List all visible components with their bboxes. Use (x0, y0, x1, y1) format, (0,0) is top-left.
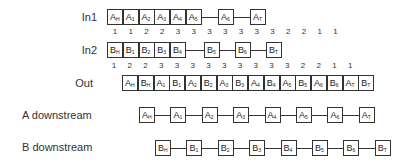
connector-line (186, 115, 201, 116)
count-value: 3 (205, 27, 215, 37)
count-value: 2 (141, 61, 151, 71)
count-value: 3 (172, 61, 182, 71)
packet-box: BT (375, 140, 391, 156)
row-label-b-downstream: B downstream (22, 141, 92, 153)
connector-line (297, 148, 312, 149)
packet-box: B5 (204, 42, 220, 58)
packet-box: A6 (218, 9, 234, 25)
packet-box: BT (266, 42, 282, 58)
row-label-in2: In2 (37, 44, 97, 56)
packet-box: A4 (170, 9, 186, 25)
packet-box: A6 (327, 107, 343, 123)
connector-line (218, 115, 233, 116)
count-value: 1 (345, 61, 355, 71)
count-value: 2 (142, 27, 152, 37)
packet-box: A2 (202, 107, 218, 123)
connector-line (328, 148, 343, 149)
packet-box: B4 (281, 140, 297, 156)
count-value: 2 (299, 27, 309, 37)
packet-box: B2 (139, 42, 155, 58)
count-value: 3 (219, 61, 229, 71)
packet-box: BH (138, 75, 154, 91)
packet-box: A2 (139, 9, 155, 25)
count-value: 3 (189, 27, 199, 37)
connector-line (281, 115, 296, 116)
packet-box: B3 (154, 42, 170, 58)
packet-box: B4 (170, 42, 186, 58)
packet-box: B6 (343, 140, 359, 156)
connector-line (234, 17, 250, 18)
packet-box: B6 (235, 42, 251, 58)
packet-box: BH (107, 42, 123, 58)
count-value: 3 (268, 27, 278, 37)
connector-line (220, 50, 235, 51)
count-value: 3 (282, 61, 292, 71)
packet-box: A1 (154, 75, 170, 91)
packet-box: A3 (233, 107, 249, 123)
connector-line (359, 148, 374, 149)
row-label-a-downstream: A downstream (22, 109, 92, 121)
count-value: 1 (126, 27, 136, 37)
packet-box: AH (122, 75, 138, 91)
count-value: 1 (330, 61, 340, 71)
connector-line (186, 50, 204, 51)
connector-line (155, 115, 170, 116)
count-value: 3 (220, 27, 230, 37)
packet-box: AT (250, 9, 266, 25)
packet-box: AH (139, 107, 155, 123)
packet-box: A5 (296, 107, 312, 123)
packet-box: B1 (186, 140, 202, 156)
count-value: 2 (314, 61, 324, 71)
connector-line (312, 115, 327, 116)
packet-box: AT (359, 107, 375, 123)
row-label-out: Out (33, 77, 93, 89)
count-value: 1 (331, 27, 341, 37)
packet-box: A3 (217, 75, 233, 91)
packet-box: A1 (170, 107, 186, 123)
count-value: 2 (298, 61, 308, 71)
packet-box: BT (358, 75, 374, 91)
packet-box: A1 (123, 9, 139, 25)
packet-box: B3 (232, 75, 248, 91)
packet-box: A4 (248, 75, 264, 91)
packet-box: AH (107, 9, 123, 25)
packet-box: B4 (264, 75, 280, 91)
connector-line (265, 148, 280, 149)
connector-line (251, 50, 266, 51)
count-value: 2 (283, 27, 293, 37)
count-value: 3 (235, 61, 245, 71)
connector-line (171, 148, 186, 149)
packet-box: A5 (280, 75, 296, 91)
packet-box: B2 (218, 140, 234, 156)
row-label-in1: In1 (37, 11, 97, 23)
count-value: 2 (157, 27, 167, 37)
count-value: 3 (267, 61, 277, 71)
count-value: 3 (204, 61, 214, 71)
packet-box: B5 (312, 140, 328, 156)
count-value: 1 (109, 61, 119, 71)
count-value: 3 (188, 61, 198, 71)
count-value: 3 (236, 27, 246, 37)
packet-box: A3 (154, 9, 170, 25)
packet-box: B1 (169, 75, 185, 91)
count-value: 1 (110, 27, 120, 37)
packet-box: A4 (265, 107, 281, 123)
packet-box: B6 (327, 75, 343, 91)
connector-line (202, 17, 219, 18)
count-value: 2 (125, 61, 135, 71)
packet-box: A2 (185, 75, 201, 91)
count-value: 3 (251, 61, 261, 71)
packet-box: B5 (295, 75, 311, 91)
packet-box: A6 (311, 75, 327, 91)
connector-line (249, 115, 264, 116)
packet-box: B2 (201, 75, 217, 91)
connector-line (202, 148, 217, 149)
packet-box: AT (343, 75, 359, 91)
count-value: 3 (156, 61, 166, 71)
count-value: 1 (315, 27, 325, 37)
packet-box: B1 (123, 42, 139, 58)
count-value: 3 (252, 27, 262, 37)
packet-box: B3 (249, 140, 265, 156)
connector-line (343, 115, 358, 116)
packet-box: BH (155, 140, 171, 156)
